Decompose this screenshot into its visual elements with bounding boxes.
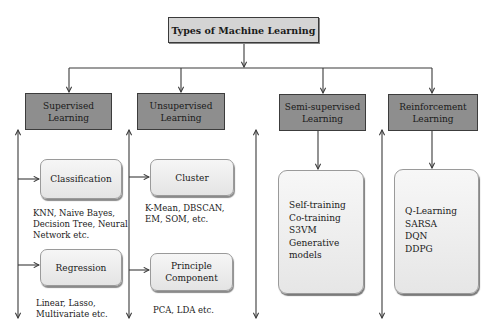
subtype-classification: Classification <box>40 159 122 199</box>
category-unsupervised: Unsupervised Learning <box>137 93 225 130</box>
category-supervised: Supervised Learning <box>25 93 112 130</box>
semi-supervised-methods-list: Self-training Co-training S3VM Generativ… <box>289 199 363 262</box>
subtype-label: Regression <box>56 262 107 274</box>
category-label: Supervised Learning <box>43 100 94 124</box>
root-title-box: Types of Machine Learning <box>168 17 319 43</box>
classification-examples: KNN, Naive Bayes, Decision Tree, Neural … <box>33 208 133 241</box>
subtype-regression: Regression <box>40 249 122 286</box>
subtype-cluster: Cluster <box>150 159 234 196</box>
method-item: SARSA <box>405 218 478 231</box>
method-item: S3VM <box>289 224 363 237</box>
root-title: Types of Machine Learning <box>172 25 316 36</box>
semi-supervised-methods-box: Self-training Co-training S3VM Generativ… <box>278 170 364 294</box>
method-item: DQN <box>405 230 478 243</box>
subtype-label: Cluster <box>175 172 208 184</box>
regression-examples: Linear, Lasso, Multivariate etc. <box>36 298 131 320</box>
category-label: Unsupervised Learning <box>150 100 213 124</box>
method-item: Generative <box>289 237 363 250</box>
reinforcement-methods-box: Q-Learning SARSA DQN DDPG <box>394 169 479 294</box>
category-reinforcement: Reinforcement Learning <box>388 94 478 131</box>
reinforcement-methods-list: Q-Learning SARSA DQN DDPG <box>405 205 478 255</box>
subtype-label: Classification <box>50 173 111 185</box>
method-item: models <box>289 249 363 262</box>
category-label: Reinforcement Learning <box>399 101 466 125</box>
method-item: Q-Learning <box>405 205 478 218</box>
subtype-label: Principle Component <box>165 260 218 284</box>
method-item: Self-training <box>289 199 363 212</box>
subtype-principle-component: Principle Component <box>150 253 233 291</box>
category-label: Semi-supervised Learning <box>285 101 360 125</box>
principle-component-examples: PCA, LDA etc. <box>153 305 243 316</box>
category-semi-supervised: Semi-supervised Learning <box>279 94 366 131</box>
cluster-examples: K-Mean, DBSCAN, EM, SOM, etc. <box>145 203 245 225</box>
method-item: Co-training <box>289 212 363 225</box>
method-item: DDPG <box>405 243 478 256</box>
